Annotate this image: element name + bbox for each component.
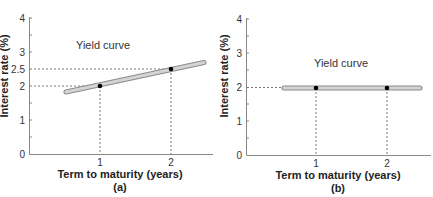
panel-b-x-axis-title: Term to maturity (years) xyxy=(275,169,400,181)
panel-b-point xyxy=(314,86,319,91)
panel-a-y-tick: 2.5 xyxy=(11,64,25,75)
panel-b-y-tick: 2 xyxy=(236,82,242,93)
panel-a-y-tick: 3 xyxy=(19,47,25,58)
panel-a-x-tick: 1 xyxy=(97,157,103,168)
panel-a-y-tick: 0 xyxy=(19,149,25,160)
panel-b-point xyxy=(385,86,390,91)
panel-b-y-tick: 4 xyxy=(236,14,242,25)
panel-a-x-axis-title: Term to maturity (years) xyxy=(57,168,182,180)
panel-a-y-axis-title: Interest rate (%) xyxy=(0,34,10,117)
panel-a-point xyxy=(98,84,103,89)
panel-b-curve-label: Yield curve xyxy=(314,57,368,69)
panel-a-label: (a) xyxy=(113,181,127,193)
panel-b-label: (b) xyxy=(331,182,345,194)
panel-a: Interest rate (%) 4 3 2.5 2 1 0 1 2 xyxy=(0,13,213,193)
panel-a-y-tick: 2 xyxy=(19,81,25,92)
panel-a-y-tick: 4 xyxy=(19,13,25,24)
panel-b-y-tick: 3 xyxy=(236,48,242,59)
panel-b: Interest rate (%) 4 3 2 1 0 1 2 Yield cu xyxy=(218,14,431,194)
panel-a-x-tick: 2 xyxy=(168,157,174,168)
panel-b-x-tick: 2 xyxy=(384,158,390,169)
panel-b-y-tick: 0 xyxy=(236,150,242,161)
panel-a-point xyxy=(169,67,174,72)
panel-a-y-tick: 1 xyxy=(19,115,25,126)
panel-b-y-tick: 1 xyxy=(236,116,242,127)
panel-b-y-axis-title: Interest rate (%) xyxy=(218,34,230,117)
yield-curve-figure: Interest rate (%) 4 3 2.5 2 1 0 1 2 xyxy=(0,0,433,197)
panel-a-curve-label: Yield curve xyxy=(76,39,130,51)
panel-b-x-tick: 1 xyxy=(313,158,319,169)
